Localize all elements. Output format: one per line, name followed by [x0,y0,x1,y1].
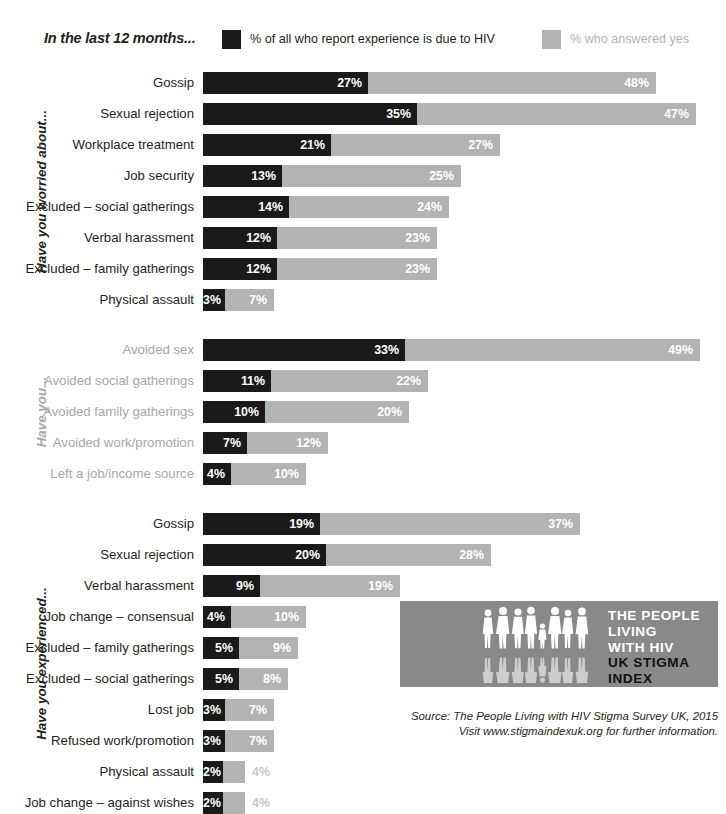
logo-wordmark: THE PEOPLELIVINGWITH HIVUK STIGMAINDEX [608,609,700,687]
row-bars: 7%3% [203,730,274,752]
bar-value-answered-yes: 37% [548,513,573,535]
row-bars: 49%33% [203,339,700,361]
row-bars: 4%2% [203,761,245,783]
chart-row: Workplace treatment27%21% [0,134,726,156]
row-bars: 8%5% [203,668,288,690]
bar-value-due-to-hiv: 3% [203,730,225,752]
bar-value-due-to-hiv: 7% [203,432,247,454]
chart-row: Avoided social gatherings22%11% [0,370,726,392]
bar-value-due-to-hiv: 2% [203,761,223,783]
row-category-label: Excluded – social gatherings [26,196,203,218]
row-category-label: Avoided family gatherings [43,401,203,423]
row-category-label: Avoided work/promotion [53,432,203,454]
row-category-label: Job change – consensual [44,606,203,628]
bar-value-answered-yes: 10% [274,463,299,485]
chart-row: Avoided family gatherings20%10% [0,401,726,423]
chart-row: Avoided sex49%33% [0,339,726,361]
row-bars: 27%21% [203,134,500,156]
bar-value-due-to-hiv: 12% [203,227,277,249]
row-category-label: Physical assault [99,289,203,311]
row-bars: 19%9% [203,575,400,597]
chart-row: Left a job/income source10%4% [0,463,726,485]
people-silhouettes-icon [478,605,598,683]
row-category-label: Verbal harassment [84,575,203,597]
logo-line: THE PEOPLE [608,609,700,623]
chart-row: Physical assault7%3% [0,289,726,311]
bar-value-due-to-hiv: 10% [203,401,265,423]
legend-title: In the last 12 months... [44,30,196,46]
chart-row: Verbal harassment23%12% [0,227,726,249]
row-category-label: Verbal harassment [84,227,203,249]
bar-value-answered-yes: 22% [396,370,421,392]
row-category-label: Avoided social gatherings [44,370,203,392]
group-axis-label: Have you... [34,339,49,485]
row-category-label: Job security [124,165,203,187]
source-line-2: Visit www.stigmaindexuk.org for further … [411,724,718,739]
bar-value-due-to-hiv: 12% [203,258,277,280]
row-bars: 12%7% [203,432,328,454]
row-bars: 47%35% [203,103,696,125]
bar-value-answered-yes: 7% [249,289,267,311]
row-category-label: Excluded – family gatherings [25,258,203,280]
row-category-label: Physical assault [99,761,203,783]
chart-row: Job security25%13% [0,165,726,187]
row-category-label: Gossip [153,72,203,94]
row-category-label: Excluded – family gatherings [25,637,203,659]
chart-row: Physical assault4%2% [0,761,726,783]
bar-value-due-to-hiv: 9% [203,575,260,597]
bar-value-answered-yes: 7% [249,699,267,721]
legend-label-answered-yes: % who answered yes [570,32,689,46]
legend-swatch-dark [222,30,241,49]
source-note: Source: The People Living with HIV Stigm… [411,709,718,739]
row-bars: 7%3% [203,289,274,311]
row-category-label: Job change – against wishes [25,792,203,814]
bar-value-answered-yes: 23% [405,258,430,280]
bar-value-due-to-hiv: 4% [203,463,231,485]
bar-value-due-to-hiv: 19% [203,513,320,535]
row-bars: 9%5% [203,637,298,659]
row-category-label: Workplace treatment [73,134,203,156]
legend-swatch-light [542,30,561,49]
logo-line: LIVING [608,625,700,639]
bar-value-due-to-hiv: 4% [203,606,231,628]
row-category-label: Avoided sex [122,339,203,361]
legend-label-due-to-hiv: % of all who report experience is due to… [250,32,495,46]
bar-value-due-to-hiv: 5% [203,668,239,690]
row-category-label: Sexual rejection [100,103,203,125]
chart-row: Gossip48%27% [0,72,726,94]
bar-value-due-to-hiv: 2% [203,792,223,814]
bar-value-due-to-hiv: 33% [203,339,405,361]
bar-value-due-to-hiv: 3% [203,289,225,311]
logo-line: WITH HIV [608,641,700,655]
chart-row: Excluded – family gatherings23%12% [0,258,726,280]
bar-value-answered-yes: 10% [274,606,299,628]
row-bars: 7%3% [203,699,274,721]
chart-row: Gossip37%19% [0,513,726,535]
bar-value-answered-yes: 4% [252,761,270,783]
logo-line: INDEX [608,672,700,686]
bar-value-answered-yes: 24% [417,196,442,218]
source-line-1: Source: The People Living with HIV Stigm… [411,709,718,724]
bar-value-answered-yes: 27% [468,134,493,156]
chart-row: Verbal harassment19%9% [0,575,726,597]
row-bars: 22%11% [203,370,428,392]
row-category-label: Excluded – social gatherings [26,668,203,690]
row-bars: 28%20% [203,544,491,566]
bar-value-due-to-hiv: 21% [203,134,331,156]
row-bars: 4%2% [203,792,245,814]
chart-row: Job change – against wishes4%2% [0,792,726,814]
bar-value-answered-yes: 4% [252,792,270,814]
row-category-label: Sexual rejection [100,544,203,566]
group-axis-label: Have you worried about... [34,72,49,311]
bar-value-answered-yes: 8% [263,668,281,690]
bar-value-answered-yes: 49% [668,339,693,361]
chart-legend: In the last 12 months... % of all who re… [0,28,726,58]
bar-value-due-to-hiv: 11% [203,370,271,392]
bar-value-due-to-hiv: 20% [203,544,326,566]
chart-row: Excluded – social gatherings24%14% [0,196,726,218]
bar-value-answered-yes: 25% [429,165,454,187]
row-category-label: Gossip [153,513,203,535]
row-bars: 24%14% [203,196,449,218]
logo-line: UK STIGMA [608,656,700,670]
bar-value-answered-yes: 7% [249,730,267,752]
